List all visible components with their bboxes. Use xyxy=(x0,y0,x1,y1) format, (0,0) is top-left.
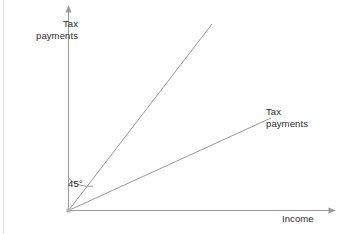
curve-label-line1: Tax xyxy=(266,106,281,117)
x-axis-label: Income xyxy=(282,213,314,225)
origin-marker xyxy=(67,209,71,213)
y-axis-label-line1: Tax xyxy=(63,18,78,29)
tax-payments-line xyxy=(69,118,272,211)
forty-five-degree-line xyxy=(69,24,213,211)
curve-label-line2: payments xyxy=(266,118,308,129)
angle-label: 45° xyxy=(68,178,83,190)
y-axis-label: Taxpayments xyxy=(18,18,78,41)
tax-payments-line-label: Taxpayments xyxy=(266,106,340,129)
y-axis-label-line2: payments xyxy=(36,30,78,41)
figure-canvas: Taxpayments Taxpayments 45° Income xyxy=(0,0,342,234)
